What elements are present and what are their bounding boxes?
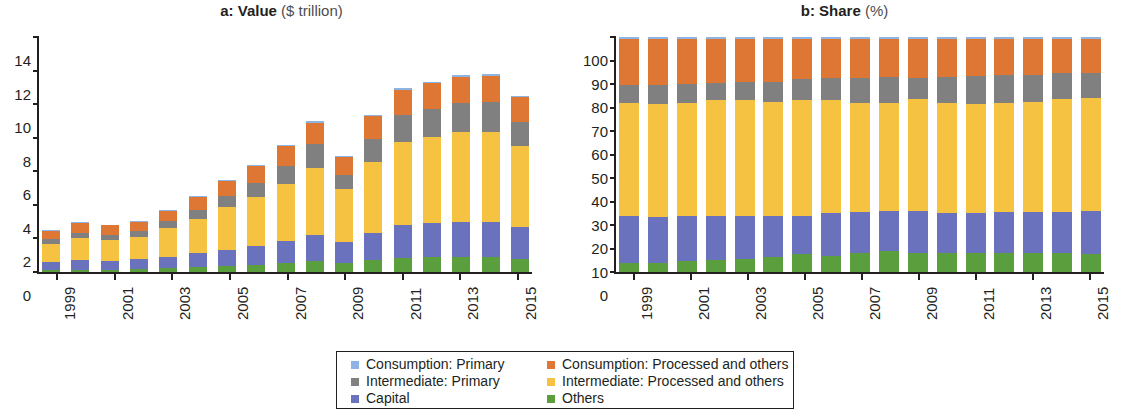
bar-segment	[821, 100, 841, 213]
y-tick-mark	[33, 170, 39, 172]
bar-2000[interactable]	[71, 222, 89, 272]
legend-column-left: Consumption: PrimaryIntermediate: Primar…	[351, 356, 547, 408]
x-tick-label: 2003	[177, 287, 192, 320]
bar-2013[interactable]	[452, 75, 470, 272]
bar-segment	[1081, 254, 1101, 272]
panel-value: a: Value ($ trillion) 02468101214 199920…	[0, 0, 563, 345]
panel-b-plot-area: 199920012003200520072009201120132015	[614, 37, 1104, 274]
legend-label: Consumption: Primary	[366, 356, 505, 373]
bar-segment	[247, 197, 265, 246]
bar-segment	[879, 39, 899, 77]
bar-segment	[966, 213, 986, 253]
bar-segment	[1023, 212, 1043, 253]
legend-item[interactable]: Intermediate: Primary	[351, 373, 547, 390]
bar-2010[interactable]	[364, 115, 382, 272]
bar-segment	[763, 257, 783, 272]
legend-swatch-icon	[351, 378, 359, 386]
bar-2009[interactable]	[335, 156, 353, 272]
bar-segment	[792, 39, 812, 79]
x-tick-label: 2001	[696, 287, 711, 320]
legend-column-right: Consumption: Processed and othersInterme…	[547, 356, 787, 408]
bar-segment	[619, 39, 639, 85]
bar-2013[interactable]	[1023, 37, 1043, 272]
bar-2006[interactable]	[247, 165, 265, 272]
bar-segment	[908, 253, 928, 272]
bar-segment	[937, 103, 957, 213]
bar-segment	[850, 39, 870, 78]
legend-item[interactable]: Consumption: Primary	[351, 356, 547, 373]
bar-segment	[1052, 39, 1072, 73]
bar-2006[interactable]	[821, 37, 841, 272]
x-tick-label: 1999	[62, 287, 77, 320]
bar-segment	[850, 103, 870, 212]
bar-segment	[879, 211, 899, 251]
y-tick-mark	[610, 60, 616, 62]
panel-b-title-unit: (%)	[865, 2, 888, 19]
bar-segment	[189, 253, 207, 267]
bar-segment	[452, 103, 470, 132]
bar-segment	[677, 103, 697, 216]
bar-segment	[1023, 253, 1043, 272]
bar-1999[interactable]	[619, 37, 639, 272]
panel-b-label: b:	[801, 2, 815, 19]
bar-2003[interactable]	[159, 210, 177, 272]
x-tick-label: 2005	[810, 287, 825, 320]
bar-2001[interactable]	[677, 37, 697, 272]
panel-a-title: a: Value ($ trillion)	[0, 2, 563, 20]
bar-segment	[821, 256, 841, 272]
bar-2002[interactable]	[706, 37, 726, 272]
bar-2011[interactable]	[394, 88, 412, 272]
bar-2007[interactable]	[850, 37, 870, 272]
y-tick-label: 2	[23, 254, 31, 269]
bar-segment	[966, 76, 986, 104]
bar-segment	[423, 223, 441, 257]
bar-segment	[277, 146, 295, 165]
legend-label: Consumption: Processed and others	[562, 356, 788, 373]
panel-a-title-bold: Value	[238, 2, 277, 19]
bar-2004[interactable]	[763, 37, 783, 272]
panel-a-x-axis-labels: 199920012003200520072009201120132015	[39, 272, 532, 332]
bar-segment	[648, 85, 668, 104]
bar-2003[interactable]	[735, 37, 755, 272]
bar-2008[interactable]	[879, 37, 899, 272]
bar-segment	[511, 259, 529, 272]
bar-2004[interactable]	[189, 196, 207, 272]
bar-2010[interactable]	[937, 37, 957, 272]
bar-2009[interactable]	[908, 37, 928, 272]
bar-2012[interactable]	[994, 37, 1014, 272]
bar-segment	[423, 109, 441, 137]
bar-2011[interactable]	[966, 37, 986, 272]
bar-segment	[277, 166, 295, 184]
bar-2015[interactable]	[1081, 37, 1101, 272]
bar-2015[interactable]	[511, 96, 529, 272]
x-tick-label: 2011	[408, 288, 423, 320]
legend-swatch-icon	[351, 395, 359, 403]
bar-2000[interactable]	[648, 37, 668, 272]
legend-item[interactable]: Intermediate: Processed and others	[547, 373, 787, 390]
bar-2007[interactable]	[277, 145, 295, 272]
y-tick-label: 20	[591, 241, 608, 256]
bar-2005[interactable]	[218, 180, 236, 272]
bar-2005[interactable]	[792, 37, 812, 272]
y-tick-label: 60	[591, 147, 608, 162]
bar-segment	[648, 263, 668, 272]
bar-2008[interactable]	[306, 121, 324, 272]
bar-segment	[677, 216, 697, 262]
bar-2001[interactable]	[101, 225, 119, 272]
bar-segment	[1052, 73, 1072, 99]
y-tick-mark	[610, 154, 616, 156]
bar-1999[interactable]	[42, 230, 60, 272]
bar-2002[interactable]	[130, 221, 148, 272]
bar-segment	[1081, 211, 1101, 254]
bar-segment	[306, 123, 324, 145]
y-tick-label: 90	[591, 77, 608, 92]
legend-item[interactable]: Capital	[351, 390, 547, 407]
bar-segment	[677, 39, 697, 84]
legend-item[interactable]: Others	[547, 390, 787, 407]
bar-2014[interactable]	[482, 74, 500, 272]
bar-2012[interactable]	[423, 82, 441, 272]
bar-2014[interactable]	[1052, 37, 1072, 272]
bar-segment	[1081, 39, 1101, 73]
legend-item[interactable]: Consumption: Processed and others	[547, 356, 787, 373]
bar-segment	[677, 84, 697, 103]
